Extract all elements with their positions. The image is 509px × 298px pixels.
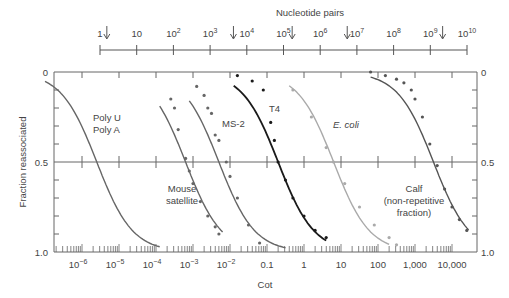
label-ms2: MS-2 xyxy=(222,118,245,129)
svg-text:10−3: 10−3 xyxy=(180,258,199,270)
data-point xyxy=(228,175,231,178)
svg-text:10−2: 10−2 xyxy=(217,258,236,270)
top-tick-label: 104 xyxy=(240,27,255,39)
top-tick-label: 108 xyxy=(386,27,401,39)
data-point xyxy=(291,196,294,199)
data-point xyxy=(188,169,191,172)
data-point xyxy=(203,94,206,97)
label-poly-u: Poly U xyxy=(93,112,121,123)
data-point xyxy=(214,225,217,228)
curves xyxy=(45,70,469,247)
data-point xyxy=(310,115,313,118)
label-calf-3: fraction) xyxy=(397,207,431,218)
data-point xyxy=(291,88,294,91)
label-mouse-1: Mouse xyxy=(168,183,197,194)
x-tick-labels: 10−610−510−410−310−20.11101001,00010,000 xyxy=(69,258,467,270)
data-point xyxy=(284,178,287,181)
data-point xyxy=(269,121,272,124)
data-point xyxy=(436,164,439,167)
data-point xyxy=(258,241,261,244)
top-tick-label: 105 xyxy=(276,27,291,39)
data-point xyxy=(443,187,446,190)
svg-text:10−4: 10−4 xyxy=(143,258,162,270)
top-tick-label: 1 xyxy=(97,28,102,39)
svg-text:100: 100 xyxy=(370,259,386,270)
data-point xyxy=(373,223,376,226)
data-point xyxy=(413,97,416,100)
y-tick-0-right: 0 xyxy=(481,67,486,78)
data-point xyxy=(384,74,387,77)
data-point xyxy=(395,243,398,246)
data-point xyxy=(236,74,239,77)
top-tick-label: 107 xyxy=(350,27,365,39)
data-point xyxy=(214,133,217,136)
data-point xyxy=(210,112,213,115)
data-point xyxy=(325,146,328,149)
data-point xyxy=(262,88,265,91)
svg-text:10−5: 10−5 xyxy=(106,258,125,270)
data-point xyxy=(450,205,453,208)
curve xyxy=(160,106,223,232)
data-point xyxy=(206,106,209,109)
data-point xyxy=(458,218,461,221)
svg-text:1: 1 xyxy=(301,259,306,270)
y-tick-1.0-left: 1.0 xyxy=(35,247,48,258)
data-point xyxy=(217,232,220,235)
data-point xyxy=(217,139,220,142)
curve xyxy=(45,81,160,246)
data-point xyxy=(421,115,424,118)
data-point xyxy=(465,229,468,232)
data-point xyxy=(199,200,202,203)
data-point xyxy=(358,205,361,208)
cot-curve-chart: Nucleotide pairs 11010210310410510610710… xyxy=(0,0,509,298)
data-point xyxy=(195,85,198,88)
top-tick-label: 102 xyxy=(166,27,181,39)
top-axis: 1101021031041051061071081091010 xyxy=(97,26,476,55)
data-point xyxy=(247,223,250,226)
data-point xyxy=(206,214,209,217)
data-point xyxy=(369,70,372,73)
top-axis-title: Nucleotide pairs xyxy=(276,7,344,18)
y-axis-label: Fraction reassociated xyxy=(17,117,28,208)
data-point xyxy=(314,229,317,232)
label-calf-2: (non-repetitive xyxy=(384,195,445,206)
label-t4: T4 xyxy=(269,103,280,114)
data-point xyxy=(225,160,228,163)
y-tick-1.0-right: 1.0 xyxy=(481,247,494,258)
top-tick-label: 1010 xyxy=(458,27,476,39)
data-point xyxy=(302,214,305,217)
svg-text:1,000: 1,000 xyxy=(403,259,427,270)
data-point xyxy=(325,236,328,239)
top-tick-label: 103 xyxy=(203,27,218,39)
data-point xyxy=(332,160,335,163)
data-point xyxy=(277,160,280,163)
data-point xyxy=(395,78,398,81)
data-point xyxy=(388,236,391,239)
label-calf-1: Calf xyxy=(406,183,423,194)
label-poly-a: Poly A xyxy=(93,124,121,135)
data-point xyxy=(184,157,187,160)
y-tick-0.5-right: 0.5 xyxy=(481,157,494,168)
data-point xyxy=(402,81,405,84)
data-point xyxy=(173,106,176,109)
data-point xyxy=(169,97,172,100)
data-point xyxy=(410,88,413,91)
label-ecoli: E. coli xyxy=(333,119,360,130)
svg-text:10: 10 xyxy=(336,259,347,270)
y-tick-0.5-left: 0.5 xyxy=(35,157,48,168)
y-tick-0-left: 0 xyxy=(43,67,48,78)
data-point xyxy=(236,196,239,199)
svg-text:10−6: 10−6 xyxy=(69,258,88,270)
label-mouse-2: satellite xyxy=(166,195,198,206)
svg-text:0.1: 0.1 xyxy=(260,259,273,270)
top-tick-label: 10 xyxy=(131,28,142,39)
data-point xyxy=(428,142,431,145)
data-point xyxy=(177,128,180,131)
data-point xyxy=(343,182,346,185)
data-point xyxy=(251,79,254,82)
data-point xyxy=(273,139,276,142)
svg-text:10,000: 10,000 xyxy=(437,259,466,270)
top-tick-label: 109 xyxy=(423,27,438,39)
x-axis-label: Cot xyxy=(258,279,273,290)
top-tick-label: 106 xyxy=(313,27,328,39)
